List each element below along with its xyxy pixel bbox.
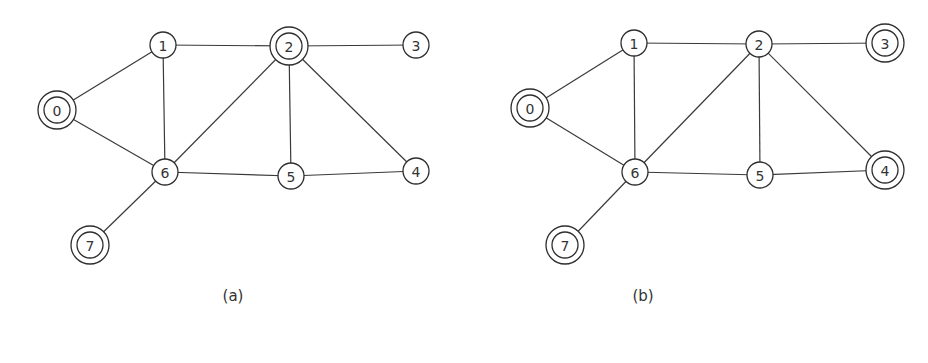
node-7: 7 [71,226,109,264]
edge-1-2 [634,43,759,44]
node-label: 3 [881,36,890,52]
edge-6-5 [635,172,760,175]
node-label: 0 [53,103,62,119]
caption-b: (b) [632,287,653,305]
node-2: 2 [746,31,772,57]
node-3: 3 [403,32,429,58]
node-label: 2 [755,37,764,53]
edge-2-4 [759,44,885,170]
node-label: 7 [86,238,95,254]
node-2: 2 [270,27,308,65]
node-label: 1 [159,38,168,54]
node-7: 7 [546,226,584,264]
node-label: 3 [412,38,421,54]
node-1: 1 [621,30,647,56]
edge-1-6 [163,45,165,172]
node-label: 7 [561,238,570,254]
node-6: 6 [622,159,648,185]
node-1: 1 [150,32,176,58]
node-3: 3 [866,24,904,62]
node-4: 4 [403,158,429,184]
graph-a: 01234567 [38,27,429,264]
node-label: 4 [412,164,421,180]
edge-2-5 [759,44,760,175]
edge-2-6 [165,46,289,172]
node-5: 5 [278,163,304,189]
node-4: 4 [866,151,904,189]
node-0: 0 [511,89,549,127]
edge-6-5 [165,172,291,176]
edge-2-6 [635,44,759,172]
node-label: 6 [631,165,640,181]
node-5: 5 [747,162,773,188]
edge-5-4 [291,171,416,176]
edge-1-6 [634,43,635,172]
node-label: 5 [287,169,296,185]
graph-diagrams: 0123456701234567 [0,0,928,363]
node-label: 6 [161,165,170,181]
node-label: 5 [756,168,765,184]
node-label: 1 [630,36,639,52]
graph-b: 01234567 [511,24,904,264]
caption-a: (a) [223,287,244,305]
node-6: 6 [152,159,178,185]
node-label: 0 [526,101,535,117]
node-label: 2 [285,39,294,55]
node-0: 0 [38,91,76,129]
node-label: 4 [881,163,890,179]
edge-2-4 [289,46,416,171]
